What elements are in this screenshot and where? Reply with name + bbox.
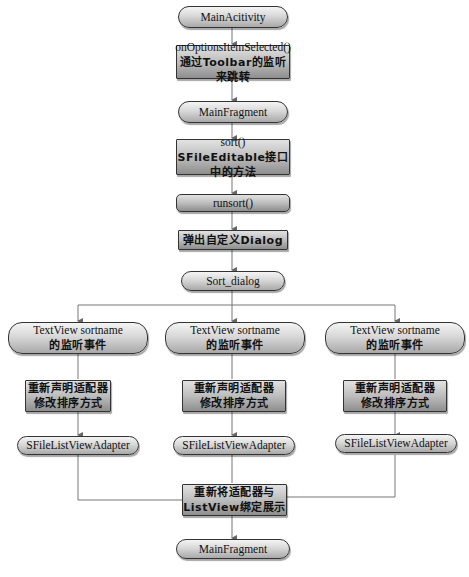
adapter-node-1: SFileListViewAdapter [17,436,139,455]
adapter-node-2: SFileListViewAdapter [173,436,295,455]
listener-3-line2: 的监听事件 [366,338,424,353]
listener-node-1: TextView sortname 的监听事件 [8,322,148,354]
on-options-line1: onOptionsItemSelected() [175,40,291,55]
rebind-line1: 重新将适配器与 [194,485,275,500]
listener-2-line1: TextView sortname [190,323,280,338]
adapter-1-label: SFileListViewAdapter [26,438,129,453]
listener-3-line1: TextView sortname [350,323,440,338]
adapter-2-label: SFileListViewAdapter [182,438,285,453]
main-activity-label: MainAcitivity [200,10,265,25]
redeclare-3-line2: 修改排序方式 [361,396,430,411]
main-fragment-bottom-node: MainFragment [176,539,290,559]
main-fragment-top-label: MainFragment [199,105,267,120]
main-fragment-bottom-label: MainFragment [199,542,267,557]
main-fragment-top-node: MainFragment [178,101,288,123]
redeclare-node-2: 重新声明适配器 修改排序方式 [182,380,286,412]
redeclare-1-line2: 修改排序方式 [34,396,103,411]
listener-node-3: TextView sortname 的监听事件 [325,322,465,354]
redeclare-2-line1: 重新声明适配器 [194,381,275,396]
sort-dialog-label: Sort_dialog [206,274,260,289]
listener-1-line1: TextView sortname [33,323,123,338]
sort-dialog-node: Sort_dialog [181,271,285,291]
runsort-node: runsort() [176,194,290,212]
adapter-3-label: SFileListViewAdapter [344,436,447,451]
popup-dialog-label: 弹出自定义Dialog [183,233,283,248]
runsort-label: runsort() [213,196,253,211]
redeclare-node-3: 重新声明适配器 修改排序方式 [343,380,447,412]
rebind-listview-node: 重新将适配器与 ListView绑定展示 [182,484,287,516]
redeclare-node-1: 重新声明适配器 修改排序方式 [25,380,111,412]
redeclare-1-line1: 重新声明适配器 [28,381,109,396]
listener-1-line2: 的监听事件 [49,338,107,353]
listener-2-line2: 的监听事件 [206,338,264,353]
sort-node: sort() SFileEditable接口中的方法 [176,139,290,175]
redeclare-3-line1: 重新声明适配器 [355,381,436,396]
main-activity-node: MainAcitivity [178,6,288,28]
listener-node-2: TextView sortname 的监听事件 [165,322,305,354]
adapter-node-3: SFileListViewAdapter [335,434,457,453]
on-options-line2: 通过Toolbar的监听来跳转 [177,55,289,85]
sort-line2: SFileEditable接口中的方法 [177,150,289,180]
rebind-line2: ListView绑定展示 [183,500,285,515]
sort-line1: sort() [221,135,246,150]
redeclare-2-line2: 修改排序方式 [200,396,269,411]
popup-dialog-node: 弹出自定义Dialog [178,230,288,250]
on-options-item-selected-node: onOptionsItemSelected() 通过Toolbar的监听来跳转 [176,45,290,79]
